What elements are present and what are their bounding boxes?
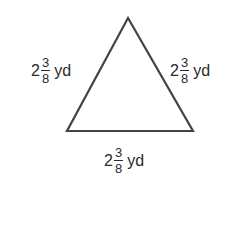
right-whole: 2 — [170, 63, 179, 79]
left-fraction: 3 8 — [41, 56, 50, 85]
right-numerator: 3 — [180, 56, 189, 71]
right-denominator: 8 — [181, 71, 188, 85]
left-unit: yd — [54, 63, 71, 79]
bottom-whole: 2 — [104, 153, 113, 169]
right-fraction: 3 8 — [180, 56, 189, 85]
right-side-label: 2 3 8 yd — [170, 56, 210, 85]
left-side-label: 2 3 8 yd — [31, 56, 71, 85]
bottom-unit: yd — [127, 153, 144, 169]
bottom-numerator: 3 — [114, 146, 123, 161]
left-numerator: 3 — [41, 56, 50, 71]
left-whole: 2 — [31, 63, 40, 79]
bottom-fraction: 3 8 — [114, 146, 123, 175]
left-denominator: 8 — [42, 71, 49, 85]
bottom-side-label: 2 3 8 yd — [104, 146, 144, 175]
right-unit: yd — [193, 63, 210, 79]
bottom-denominator: 8 — [115, 161, 122, 175]
